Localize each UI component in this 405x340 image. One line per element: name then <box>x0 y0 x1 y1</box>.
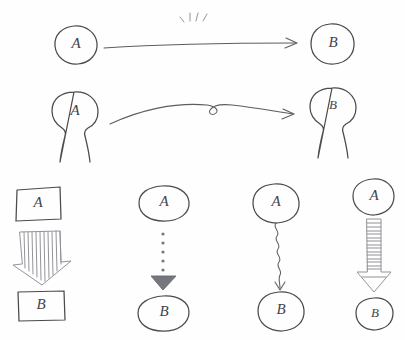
col-ridged-block: A <box>353 179 394 330</box>
node-label: B <box>159 303 168 319</box>
col-wavy: A B <box>253 184 304 331</box>
node-label: A <box>70 35 81 51</box>
connector-ridged-block-arrow <box>357 219 391 292</box>
connector-wavy-arrow <box>275 223 285 290</box>
connector-straight-arrow-row1 <box>104 38 297 48</box>
node-label: A <box>69 102 80 118</box>
node-label: B <box>276 301 285 317</box>
node-circle-b-row1[interactable]: B <box>311 24 354 64</box>
hand-drawn-diagram: A B A <box>0 0 405 340</box>
dot <box>161 259 164 262</box>
node-label: B <box>371 305 379 320</box>
node-person-a-row2[interactable]: A <box>52 92 98 162</box>
node-label: B <box>328 34 337 50</box>
dot <box>161 250 164 253</box>
node-circle-b-col3[interactable]: B <box>258 292 304 331</box>
node-label: A <box>32 194 43 210</box>
node-oval-b-col2[interactable]: B <box>138 296 189 331</box>
node-circle-a-col3[interactable]: A <box>253 184 299 223</box>
node-circle-b-col4[interactable]: B <box>356 298 393 330</box>
node-label: B <box>36 296 45 312</box>
node-person-b-row2[interactable]: B <box>310 88 356 158</box>
col-striped-block: A B <box>13 187 71 321</box>
node-label: B <box>329 97 337 112</box>
connector-curved-arrow-row2 <box>110 104 294 124</box>
row-person-curved: A B <box>52 88 356 162</box>
dot <box>161 241 164 244</box>
node-rect-a-col1[interactable]: A <box>16 187 61 221</box>
node-label: A <box>158 193 169 209</box>
row-circle-straight: A B <box>55 13 354 64</box>
col-dotted: A B <box>138 186 189 331</box>
block-arrow-rungs <box>362 223 386 277</box>
solid-triangle-arrowhead <box>151 276 176 290</box>
node-circle-a-col4[interactable]: A <box>353 179 394 215</box>
node-rect-b-col1[interactable]: B <box>18 291 65 321</box>
connector-striped-block-arrow <box>13 231 71 285</box>
sketch-canvas: A B A <box>0 0 405 340</box>
node-label: A <box>270 193 281 209</box>
node-label: A <box>368 187 379 203</box>
connector-dotted-arrow <box>151 232 176 290</box>
dot <box>161 268 164 271</box>
sparkle-marks <box>180 13 207 22</box>
node-oval-a-col2[interactable]: A <box>139 186 189 221</box>
node-circle-a-row1[interactable]: A <box>55 26 97 64</box>
dot <box>161 232 164 235</box>
